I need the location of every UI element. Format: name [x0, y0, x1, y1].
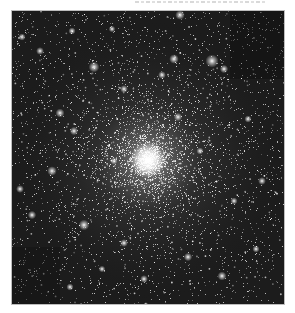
star-field: [12, 11, 284, 304]
globular-cluster-photo: [12, 11, 284, 304]
cropped-caption: [135, 0, 265, 3]
